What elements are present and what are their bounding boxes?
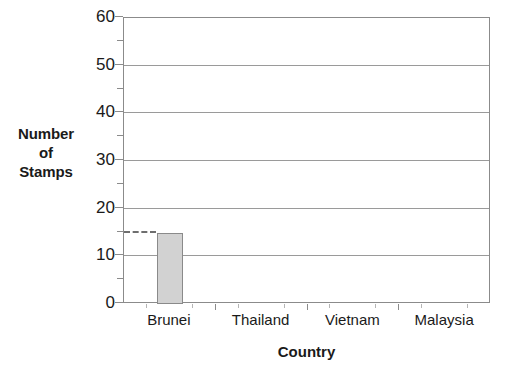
x-axis-label-vietnam: Vietnam	[307, 310, 399, 329]
y-tick-label-60: 60	[55, 8, 115, 25]
y-tick-major-20	[115, 207, 123, 208]
dashed-guide-15	[124, 231, 156, 233]
y-tick-major-30	[115, 159, 123, 160]
x-tick-minor-0-0	[146, 304, 147, 308]
x-axis-label-brunei: Brunei	[123, 310, 215, 329]
gridline-50	[124, 65, 489, 66]
gridline-20	[124, 208, 489, 209]
gridline-30	[124, 160, 489, 161]
x-axis-title: Country	[123, 342, 490, 361]
x-tick-minor-3-0	[421, 304, 422, 308]
x-tick-minor-3-1	[467, 304, 468, 308]
x-axis-label-thailand: Thailand	[215, 310, 307, 329]
y-tick-major-10	[115, 254, 123, 255]
y-tick-label-30: 30	[55, 151, 115, 168]
gridline-40	[124, 112, 489, 113]
y-tick-label-50: 50	[55, 56, 115, 73]
y-tick-label-20: 20	[55, 199, 115, 216]
y-tick-major-50	[115, 64, 123, 65]
bar-chart: Number of Stamps 0102030405060 BruneiTha…	[0, 0, 507, 385]
x-tick-minor-2-1	[375, 304, 376, 308]
y-tick-label-10: 10	[55, 246, 115, 263]
x-tick-minor-1-0	[238, 304, 239, 308]
plot-area	[123, 17, 490, 303]
y-tick-label-40: 40	[55, 103, 115, 120]
x-tick-minor-2-0	[329, 304, 330, 308]
x-tick-minor-0-1	[192, 304, 193, 308]
x-tick-minor-1-1	[284, 304, 285, 308]
bar-brunei	[157, 233, 183, 305]
x-axis-label-malaysia: Malaysia	[398, 310, 490, 329]
y-tick-major-0	[115, 302, 123, 303]
y-tick-label-0: 0	[55, 294, 115, 311]
y-tick-major-60	[115, 16, 123, 17]
y-axis-title-line-1: Number	[2, 124, 90, 143]
y-tick-major-40	[115, 111, 123, 112]
